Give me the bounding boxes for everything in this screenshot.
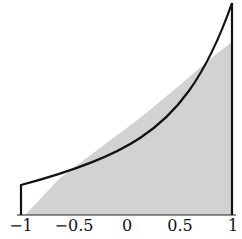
chart-canvas	[0, 0, 242, 239]
x-tick-label: 0.5	[167, 216, 192, 235]
shaded-region	[25, 42, 232, 215]
x-tick-label: 0	[122, 216, 132, 235]
x-tick-label: −0.5	[55, 216, 94, 235]
x-tick-label: 1	[228, 216, 238, 235]
x-tick-label: −1	[9, 216, 33, 235]
